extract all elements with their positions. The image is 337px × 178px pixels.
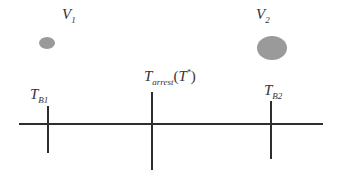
label-v2: V2 — [256, 6, 270, 22]
label-t-b2-sub: B2 — [272, 91, 282, 101]
label-v1: V1 — [62, 6, 76, 22]
label-t-star-main: T — [179, 68, 187, 84]
label-t-b1-sub: B1 — [38, 95, 48, 105]
label-t-b2: TB2 — [264, 82, 282, 98]
label-t-star-sup: * — [187, 68, 191, 77]
label-v1-main: V — [62, 6, 71, 22]
label-t-arrest: Tarrest(T*) — [144, 68, 196, 84]
timeline-diagram — [0, 0, 337, 178]
label-v2-sub: 2 — [265, 15, 270, 25]
volume-v1-circle — [39, 37, 55, 49]
label-t-arrest-paren-close: ) — [191, 68, 196, 84]
volume-v2-circle — [257, 36, 287, 60]
label-v2-main: V — [256, 6, 265, 22]
label-t-b1: TB1 — [30, 86, 48, 102]
label-v1-sub: 1 — [71, 15, 76, 25]
label-t-arrest-sub: arrest — [152, 77, 173, 87]
